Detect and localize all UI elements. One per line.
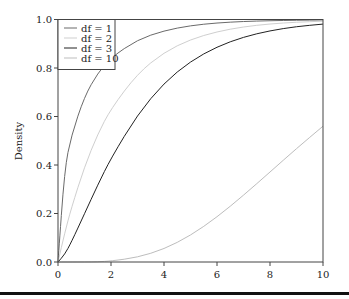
x-tick-label: 10: [317, 269, 330, 280]
y-axis: 0.00.20.40.60.81.0: [36, 14, 58, 268]
y-tick-label: 0.6: [36, 111, 52, 122]
y-tick-label: 0.0: [36, 257, 52, 268]
x-tick-label: 4: [161, 269, 167, 280]
x-axis: 0246810: [55, 262, 330, 280]
legend-label: df = 10: [81, 53, 119, 64]
x-tick-label: 0: [55, 269, 61, 280]
y-axis-title: Density: [13, 121, 24, 160]
x-tick-label: 2: [108, 269, 114, 280]
x-tick-label: 6: [214, 269, 220, 280]
legend: df = 1df = 2df = 3df = 10: [58, 20, 119, 70]
y-tick-label: 0.8: [36, 63, 52, 74]
y-tick-label: 0.2: [36, 208, 52, 219]
x-tick-label: 8: [267, 269, 273, 280]
y-tick-label: 0.4: [36, 160, 52, 171]
chart: 0246810 0.00.20.40.60.81.0 Density df = …: [0, 0, 349, 299]
series-line-3: [58, 126, 323, 262]
bottom-rule: [0, 292, 349, 295]
y-tick-label: 1.0: [36, 14, 52, 25]
